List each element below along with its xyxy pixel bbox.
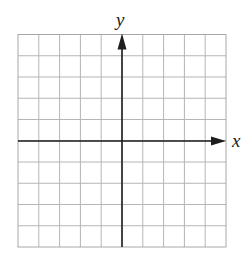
y-axis-arrow-icon [118, 34, 127, 50]
coordinate-grid-figure: x y [0, 0, 250, 262]
x-axis-arrow-icon [211, 137, 226, 146]
axes [18, 34, 226, 248]
x-axis-label: x [231, 130, 241, 151]
y-axis-label: y [114, 9, 125, 30]
